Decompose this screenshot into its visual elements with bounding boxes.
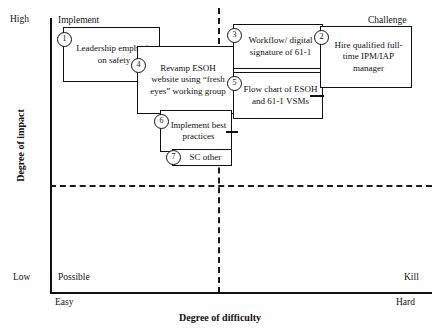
item-badge-1: 1 <box>57 32 72 47</box>
y-axis-title: Degree of impact <box>15 76 26 216</box>
quadrant-label-implement: Implement <box>58 15 99 25</box>
item-badge-5: 5 <box>227 76 242 91</box>
y-axis-high-label: High <box>10 14 29 24</box>
quadrant-label-challenge: Challenge <box>368 15 407 25</box>
item-badge-3: 3 <box>227 28 242 43</box>
item-box-3-label: Workflow/ digital signature of 61-1 <box>242 35 319 58</box>
item-box-6[interactable]: Implement best practices <box>160 110 232 152</box>
item-box-7-label: SC other <box>182 152 229 163</box>
item-box-5-label: Flow chart of ESOH and 61-1 VSMs <box>242 84 319 107</box>
x-axis-hard-label: Hard <box>396 297 415 307</box>
item-badge-4: 4 <box>131 58 146 73</box>
x-axis-line <box>50 292 432 294</box>
item-badge-7: 7 <box>166 150 181 165</box>
horizontal-divider-dashed <box>50 185 432 187</box>
item-box-6-label: Implement best practices <box>169 120 228 143</box>
item-box-2-label: Hire qualified full-time IPM/IAP manager <box>329 40 408 74</box>
item-box-3[interactable]: Workflow/ digital signature of 61-1 <box>233 24 323 69</box>
item-badge-6: 6 <box>154 114 169 129</box>
x-axis-easy-label: Easy <box>55 297 73 307</box>
item-box-2[interactable]: Hire qualified full-time IPM/IAP manager <box>320 26 412 88</box>
x-axis-title: Degree of difficulty <box>0 312 440 323</box>
y-axis-line <box>50 18 52 294</box>
impact-difficulty-matrix: High Low Easy Hard Degree of difficulty … <box>0 0 440 332</box>
y-axis-low-label: Low <box>13 272 30 282</box>
quadrant-label-kill: Kill <box>404 272 419 282</box>
connector-box6-box5 <box>226 131 238 133</box>
item-box-4-label: Revamp ESOH website using “fresh eyes” w… <box>146 63 230 97</box>
item-box-4[interactable]: Revamp ESOH website using “fresh eyes” w… <box>137 46 234 114</box>
item-badge-2: 2 <box>314 30 329 45</box>
item-box-7[interactable]: SC other <box>172 149 232 166</box>
quadrant-label-possible: Possible <box>58 272 90 282</box>
connector-box5-box2 <box>310 95 324 97</box>
